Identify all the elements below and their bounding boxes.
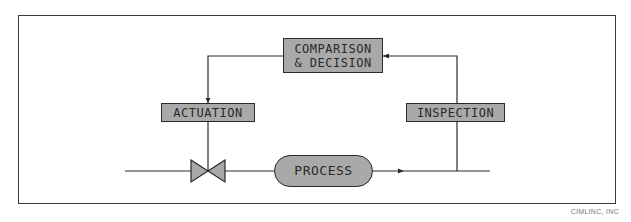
image-credit: CIMLINC, INC bbox=[571, 208, 619, 215]
comparison-decision-box: COMPARISON & DECISION bbox=[283, 38, 383, 73]
arrow-right-icon bbox=[398, 169, 404, 174]
connector-lines bbox=[0, 0, 631, 222]
inspection-box: INSPECTION bbox=[406, 103, 505, 122]
arrow-left-icon bbox=[383, 54, 389, 59]
inspection-to-comparison-line bbox=[383, 56, 457, 103]
actuation-box: ACTUATION bbox=[161, 103, 255, 122]
comparison-to-actuation-line bbox=[208, 56, 283, 103]
process-node: PROCESS bbox=[274, 155, 373, 187]
